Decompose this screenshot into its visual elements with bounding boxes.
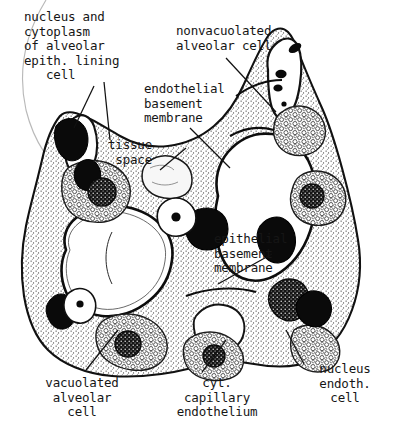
label-nucleus-and-cytoplasm: nucleus and cytoplasm of alveolar epith.… [24,10,119,83]
nucleolus-center [171,212,180,221]
label-cyt-capillary-endothelium: cyt. capillary endothelium [152,376,282,420]
nucleus-dot-upper-right-a [275,70,286,78]
label-nucleus-endoth-cell: nucleus endoth. cell [300,362,390,406]
label-endothelial-basement-membrane: endothelial basement membrane [144,82,225,126]
label-tissue-space: tissue space [108,138,152,167]
nucleus-granular-left [88,178,116,206]
nucleus-dot-upper-right-b [273,84,282,91]
nucleolus-lower-left [76,300,83,307]
vacuole-cluster-upper-right [274,106,326,156]
label-nonvacuolated-alveolar-cell: nonvacuolated alveolar cell [176,24,271,53]
label-epithelial-basement-membrane: epithelial basement membrane [214,232,287,276]
nucleus-granular-lower-left [115,331,141,357]
nucleus-dot-upper-right-c [281,101,286,106]
label-vacuolated-alveolar-cell: vacuolated alveolar cell [27,376,137,420]
nucleus-granular-right [300,184,324,208]
